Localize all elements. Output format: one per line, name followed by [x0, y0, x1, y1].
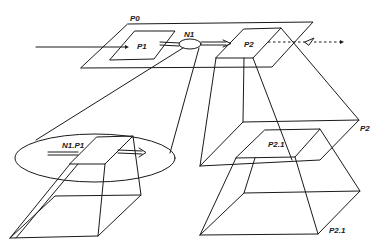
arrow-p1-n1 [160, 42, 179, 46]
label-n1-p1: N1.P1 [62, 141, 85, 150]
plane-p0 [81, 22, 313, 68]
label-n1: N1 [184, 30, 195, 39]
label-p2-1-side: P2.1 [329, 226, 346, 235]
frustum-n1-p1 [10, 136, 141, 238]
node-n1 [179, 39, 201, 49]
label-p2: P2 [244, 40, 254, 49]
label-p1: P1 [137, 42, 147, 51]
arrow-n1-p2 [201, 40, 231, 47]
expanded-n1-ellipse [15, 134, 175, 182]
label-p2-side: P2 [360, 124, 370, 133]
diagram-canvas: P0 P1 N1 P2 [0, 0, 378, 249]
input-arrow [36, 45, 129, 49]
label-p0: P0 [130, 14, 140, 23]
zoom-cone [36, 48, 199, 153]
label-p2-1-inner: P2.1 [268, 140, 285, 149]
output-dashed-arrow [268, 38, 344, 45]
